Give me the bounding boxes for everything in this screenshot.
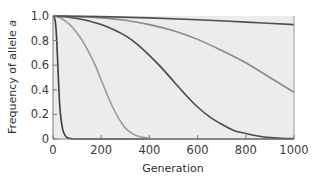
x-tick-label: 1000 xyxy=(279,143,308,157)
y-axis-title-text: Frequency of allele xyxy=(6,27,19,134)
y-tick-label: 0.4 xyxy=(31,83,49,97)
y-tick-label: 0.2 xyxy=(31,107,49,121)
x-tick-label: 400 xyxy=(138,143,160,157)
y-tick-label: 0.8 xyxy=(31,34,49,48)
x-axis-title: Generation xyxy=(142,162,203,175)
y-tick-label: 0 xyxy=(42,132,49,146)
x-tick-label: 0 xyxy=(49,143,56,157)
plot-background xyxy=(53,16,294,139)
x-tick-label: 600 xyxy=(187,143,209,157)
y-tick-label: 0.6 xyxy=(31,58,49,72)
y-tick-label: 1.0 xyxy=(31,9,49,23)
x-tick-label: 200 xyxy=(90,143,112,157)
y-axis-title: Frequency of allele a xyxy=(6,20,19,134)
x-tick-label: 800 xyxy=(235,143,257,157)
allele-frequency-chart: 00.20.40.60.81.0 02004006008001000 Gener… xyxy=(0,0,322,180)
y-axis-title-italic: a xyxy=(6,20,19,27)
